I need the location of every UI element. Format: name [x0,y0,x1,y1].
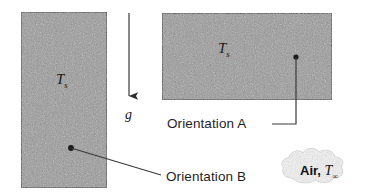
horizontal-plate-body [162,13,332,100]
orientation-a-label: Orientation A [167,117,246,131]
ambient-air-label: Air, T∞ [300,162,338,181]
vertical-plate-surface-temp: Ts [56,72,68,90]
free-convection-plate-orientation-figure: Ts Ts g Orientation A Orientation B Air,… [0,0,371,196]
vertical-plate-body [21,12,107,188]
gravity-label: g [125,108,132,122]
vertical-plate-temp-subscript: s [64,80,68,90]
ambient-temp-subscript: ∞ [332,172,338,181]
ambient-fluid-name: Air, [300,163,321,178]
horizontal-plate-temp-subscript: s [226,49,230,59]
horizontal-plate-surface-temp: Ts [218,41,230,59]
orientation-b-label: Orientation B [166,170,246,184]
vertical-plate [21,12,107,188]
ambient-temp: T∞ [321,163,338,178]
horizontal-plate [162,13,332,100]
